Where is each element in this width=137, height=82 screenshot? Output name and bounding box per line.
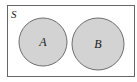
set-a-label: A: [38, 35, 47, 49]
universe-label: S: [11, 8, 17, 20]
set-b-label: B: [94, 37, 102, 51]
venn-diagram: S A B: [0, 0, 137, 82]
